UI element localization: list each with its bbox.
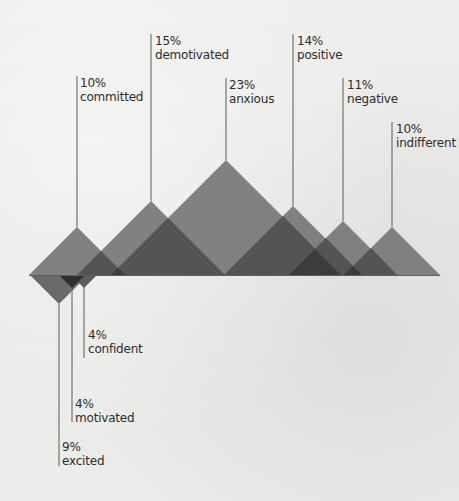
- label-motivated: 4% motivated: [75, 397, 134, 425]
- label-committed-pct: 10%: [80, 76, 143, 90]
- label-positive-name: positive: [297, 48, 342, 62]
- label-excited-name: excited: [62, 454, 104, 468]
- label-positive: 14% positive: [297, 34, 342, 62]
- label-anxious: 23% anxious: [229, 78, 274, 106]
- triangle-chart: [0, 0, 459, 501]
- label-excited-pct: 9%: [62, 440, 104, 454]
- label-indifferent-name: indifferent: [396, 136, 456, 150]
- label-indifferent: 10% indifferent: [396, 122, 456, 150]
- label-negative-name: negative: [347, 92, 398, 106]
- label-demotivated: 15% demotivated: [155, 34, 229, 62]
- label-committed: 10% committed: [80, 76, 143, 104]
- label-committed-name: committed: [80, 90, 143, 104]
- label-motivated-pct: 4%: [75, 397, 134, 411]
- label-anxious-pct: 23%: [229, 78, 274, 92]
- label-anxious-name: anxious: [229, 92, 274, 106]
- label-confident-pct: 4%: [88, 328, 143, 342]
- label-demotivated-name: demotivated: [155, 48, 229, 62]
- label-indifferent-pct: 10%: [396, 122, 456, 136]
- label-confident-name: confident: [88, 342, 143, 356]
- label-motivated-name: motivated: [75, 411, 134, 425]
- label-confident: 4% confident: [88, 328, 143, 356]
- label-negative: 11% negative: [347, 78, 398, 106]
- label-demotivated-pct: 15%: [155, 34, 229, 48]
- label-negative-pct: 11%: [347, 78, 398, 92]
- infographic-stage: 10% committed 15% demotivated 23% anxiou…: [0, 0, 459, 501]
- label-positive-pct: 14%: [297, 34, 342, 48]
- label-excited: 9% excited: [62, 440, 104, 468]
